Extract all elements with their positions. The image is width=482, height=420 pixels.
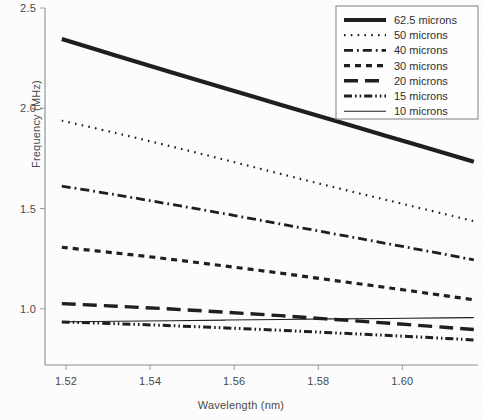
series-line-10-microns	[62, 318, 474, 322]
chart-plot-svg: 2.52.01.51.0 1.521.541.561.581.60 62.5 m…	[0, 0, 482, 420]
legend-label: 10 microns	[394, 105, 448, 117]
y-tick-label: 1.5	[20, 203, 36, 215]
series-line-15-microns	[62, 322, 474, 340]
series-line-20-microns	[62, 304, 474, 330]
x-tick-label: 1.60	[391, 375, 413, 387]
legend-label: 30 microns	[394, 60, 448, 72]
x-tick-label: 1.58	[307, 375, 329, 387]
legend-label: 15 microns	[394, 90, 448, 102]
legend-label: 20 microns	[394, 75, 448, 87]
series-line-50-microns	[62, 121, 474, 221]
series-line-30-microns	[62, 247, 474, 300]
y-axis-label: Frequency (MHz)	[30, 54, 42, 194]
legend-label: 62.5 microns	[394, 14, 457, 26]
x-tick-label: 1.56	[223, 375, 245, 387]
legend-label: 40 microns	[394, 44, 448, 56]
x-axis-ticks: 1.521.541.561.581.60	[55, 365, 414, 387]
x-axis-label: Wavelength (nm)	[0, 399, 482, 411]
y-tick-label: 1.0	[20, 303, 36, 315]
chart-figure: 2.52.01.51.0 1.521.541.561.581.60 62.5 m…	[0, 0, 482, 420]
legend-label: 50 microns	[394, 29, 448, 41]
x-tick-label: 1.54	[139, 375, 161, 387]
series-line-40-microns	[62, 186, 474, 260]
y-tick-label: 2.5	[20, 2, 36, 14]
x-tick-label: 1.52	[55, 375, 77, 387]
